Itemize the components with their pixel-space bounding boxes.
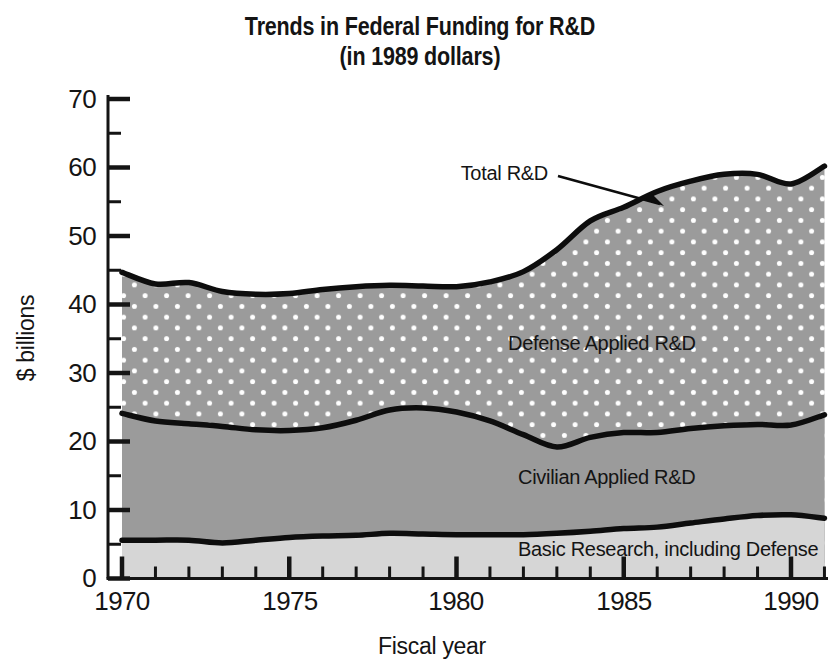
chart-figure: Trends in Federal Funding for R&D (in 19…: [0, 0, 840, 671]
x-tick-labels: 1970 1975 1980 1985 1990: [94, 586, 819, 616]
area-chart-plot: 70 60 50 40 30 20 10 0 1970 1975 1980 19…: [0, 0, 840, 671]
stacked-areas: [122, 166, 824, 578]
x-tick-label-1990: 1990: [763, 586, 819, 616]
x-tick-label-1970: 1970: [94, 586, 150, 616]
label-defense-applied: Defense Applied R&D: [508, 332, 696, 354]
total-rd-arrow-icon: [558, 176, 664, 206]
label-civilian-applied: Civilian Applied R&D: [518, 466, 695, 488]
y-tick-label-50: 50: [68, 221, 96, 251]
y-tick-label-60: 60: [68, 152, 96, 182]
y-tick-label-20: 20: [68, 426, 96, 456]
y-tick-label-70: 70: [68, 84, 96, 114]
label-basic-research: Basic Research, including Defense: [518, 538, 818, 560]
x-tick-label-1985: 1985: [596, 586, 652, 616]
x-tick-label-1975: 1975: [262, 586, 318, 616]
y-tick-label-10: 10: [68, 495, 96, 525]
y-tick-label-30: 30: [68, 358, 96, 388]
label-total-rd: Total R&D: [461, 162, 548, 184]
y-tick-labels: 70 60 50 40 30 20 10 0: [68, 84, 96, 593]
y-tick-label-40: 40: [68, 289, 96, 319]
x-axis-title: Fiscal year: [378, 633, 487, 659]
y-axis-title: $ billions: [13, 295, 39, 382]
x-tick-label-1980: 1980: [428, 586, 484, 616]
